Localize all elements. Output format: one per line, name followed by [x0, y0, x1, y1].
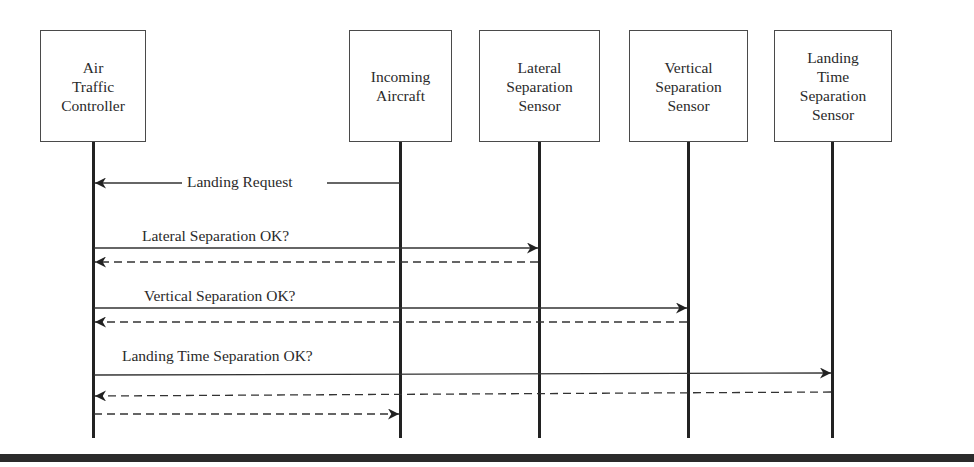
message-landing-time-return — [95, 392, 831, 396]
message-label-landing-time: Landing Time Separation OK? — [122, 347, 313, 365]
message-label-landing-request: Landing Request — [187, 173, 292, 191]
message-label-lateral: Lateral Separation OK? — [142, 227, 289, 245]
message-landing-time-request — [94, 373, 831, 375]
bottom-divider — [0, 454, 974, 462]
message-label-vertical: Vertical Separation OK? — [144, 287, 296, 305]
